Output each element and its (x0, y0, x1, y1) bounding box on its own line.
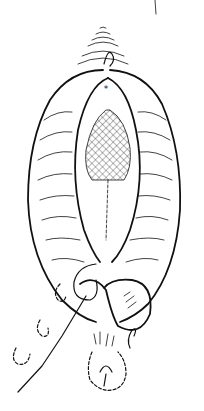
marker-symbol: * (104, 84, 109, 94)
lower-structure (88, 329, 135, 390)
balloon-shape (80, 280, 151, 330)
upper-folds (78, 27, 128, 64)
center-dashed-line (106, 180, 108, 240)
mesh-area (86, 110, 131, 180)
outer-contour-left (28, 70, 103, 322)
illustration-canvas: * (0, 0, 204, 411)
faint-line (155, 0, 156, 14)
balloon-shading (124, 292, 136, 308)
outer-contour-right (110, 70, 180, 322)
looped-suture (13, 264, 97, 392)
anatomical-illustration: * (0, 0, 204, 411)
